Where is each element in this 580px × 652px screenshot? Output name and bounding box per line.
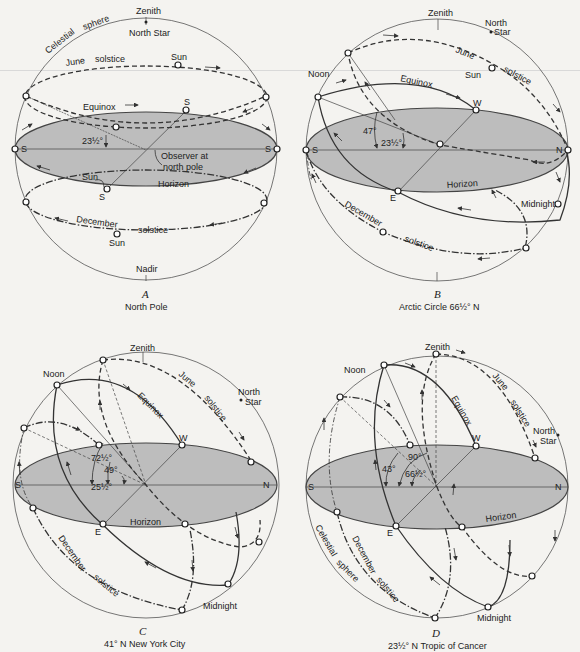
noon-label: Noon (43, 369, 65, 379)
december-label: December (343, 199, 384, 228)
sun-marker (473, 443, 479, 449)
solstice-label: solstice (92, 572, 121, 599)
direction-arrow (478, 258, 490, 259)
sun-marker (114, 231, 120, 237)
south-label: S (15, 480, 21, 490)
solstice-label: solstice (403, 233, 435, 253)
sun-marker (555, 201, 561, 207)
noon-label: Noon (308, 69, 330, 79)
south-label: S (265, 144, 271, 154)
direction-arrow (239, 432, 244, 440)
solstice-label: solstice (374, 575, 401, 604)
sun-marker (113, 124, 119, 130)
panel-letter: B (434, 288, 441, 300)
sun-marker (21, 425, 27, 431)
sun-marker (225, 581, 231, 587)
sun-marker (182, 521, 188, 527)
sun-marker (12, 146, 18, 152)
zenith-label: Zenith (425, 342, 450, 352)
direction-arrow (243, 108, 253, 112)
noon-label: Noon (344, 365, 366, 375)
angle-label: 23½° (82, 136, 104, 146)
panel-b: Zenith North Star June solstice Sun Noon… (303, 8, 571, 312)
panel-a: Zenith North Star Celestial sphere June … (12, 6, 280, 312)
east-label: E (95, 527, 101, 537)
sun-marker (274, 146, 280, 152)
angle-label: 25½° (91, 482, 113, 492)
sun-marker (261, 200, 267, 206)
direction-arrow (205, 67, 220, 68)
north-star-dot (145, 21, 148, 24)
sun-marker (381, 362, 387, 368)
direction-arrow (446, 94, 460, 98)
sun-marker (485, 604, 491, 610)
direction-arrow (312, 174, 316, 183)
angle-label: 49° (104, 465, 118, 475)
zenith-label: Zenith (130, 343, 155, 353)
west-label: W (472, 433, 481, 443)
west-label: W (179, 433, 188, 443)
angle-label: 72½° (91, 453, 113, 463)
south-label: S (312, 145, 318, 155)
south-label: S (184, 97, 190, 107)
angle-label: 23½° (381, 138, 403, 148)
sun-marker (23, 199, 29, 205)
sun-marker (303, 147, 309, 153)
direction-arrow (192, 560, 193, 571)
sun-marker (175, 62, 181, 68)
sun-marker (179, 607, 185, 613)
sun-marker (96, 442, 102, 448)
sun-label: Sun (82, 172, 98, 182)
sun-marker (459, 524, 465, 530)
midnight-label: Midnight (521, 199, 556, 209)
star-label: Star (494, 27, 511, 37)
observer-label: north pole (163, 162, 203, 172)
sun-marker (334, 509, 340, 515)
horizon-label: Horizon (158, 179, 189, 189)
north-label: North (533, 426, 555, 436)
direction-arrow (262, 124, 270, 130)
sun-label: Sun (465, 70, 481, 80)
zenith-label: Zenith (136, 6, 161, 16)
sun-marker (256, 539, 262, 545)
sun-marker (183, 107, 189, 113)
sun-marker (529, 573, 535, 579)
star-label: Star (245, 397, 262, 407)
panel-caption: Arctic Circle 66½° N (399, 302, 480, 312)
solstice-label: solstice (138, 225, 168, 235)
celestial-sphere-figure: Zenith North Star Celestial sphere June … (0, 0, 580, 652)
angle-label: 90° (408, 452, 422, 462)
sun-marker (437, 141, 443, 147)
sun-label: Sun (171, 52, 187, 62)
star-label: Star (540, 436, 557, 446)
equinox-label: Equinox (136, 390, 166, 420)
nadir-label: Nadir (136, 264, 158, 274)
december-label: December (56, 533, 88, 573)
direction-arrow (383, 35, 398, 36)
direction-arrow (553, 104, 560, 112)
june-label: June (454, 45, 476, 62)
panel-letter: C (139, 625, 147, 637)
solstice-label: solstice (95, 54, 125, 64)
direction-arrow (458, 208, 471, 210)
horizon-label: Horizon (130, 517, 161, 527)
direction-arrow (533, 440, 536, 447)
east-label: E (390, 193, 396, 203)
sun-marker (23, 93, 29, 99)
south-label: S (308, 482, 314, 492)
midnight-label: Midnight (477, 613, 512, 623)
equinox-label: Equinox (83, 102, 116, 112)
north-star-dot (557, 434, 560, 437)
north-label: North (238, 387, 260, 397)
north-star-dot (240, 399, 243, 402)
sphere-label: sphere (81, 13, 110, 32)
direction-arrow (556, 172, 560, 182)
sun-marker (380, 229, 386, 235)
east-label: E (387, 528, 393, 538)
panel-caption: North Pole (125, 302, 168, 312)
sun-label: Sun (109, 238, 125, 248)
south-label: S (99, 192, 105, 202)
direction-arrow (235, 527, 238, 538)
sun-marker (248, 459, 254, 465)
solstice-label: solstice (508, 398, 532, 429)
